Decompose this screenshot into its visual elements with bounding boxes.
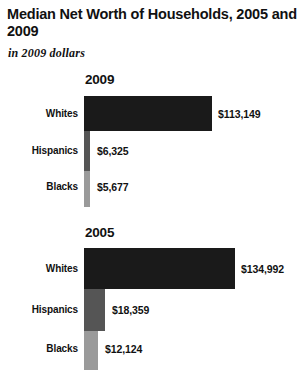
bar-2009-blacks [84, 171, 90, 207]
panel-year-label-2005: 2005 [85, 225, 114, 240]
panel-2009: 2009 Whites $113,149 Hispanics $6,325 Bl… [0, 72, 305, 207]
bar-2009-hispanics [84, 131, 90, 171]
bar-row-2005-hispanics: Hispanics $18,359 [0, 289, 305, 331]
chart-title: Median Net Worth of Households, 2005 and… [7, 6, 297, 40]
value-label-2005-whites: $134,992 [241, 263, 284, 275]
value-label-2005-hispanics: $18,359 [112, 304, 149, 316]
category-label-2009-blacks: Blacks [0, 181, 78, 192]
bar-row-2005-blacks: Blacks $12,124 [0, 331, 305, 370]
bar-row-2009-whites: Whites $113,149 [0, 96, 305, 131]
category-label-2005-whites: Whites [0, 263, 78, 274]
category-label-2009-hispanics: Hispanics [0, 145, 78, 156]
bar-2009-whites [84, 96, 212, 131]
chart-subtitle: in 2009 dollars [8, 46, 85, 61]
value-label-2009-whites: $113,149 [218, 108, 260, 120]
panel-year-label-2009: 2009 [85, 72, 114, 87]
category-label-2005-blacks: Blacks [0, 343, 78, 354]
value-label-2005-blacks: $12,124 [105, 343, 142, 355]
bar-2005-blacks [84, 331, 98, 370]
category-label-2009-whites: Whites [0, 108, 78, 119]
value-label-2009-hispanics: $6,325 [97, 145, 129, 157]
bar-row-2009-hispanics: Hispanics $6,325 [0, 131, 305, 171]
bar-2005-hispanics [84, 289, 105, 331]
chart-container: Median Net Worth of Households, 2005 and… [0, 0, 305, 386]
value-label-2009-blacks: $5,677 [97, 181, 129, 193]
bar-row-2005-whites: Whites $134,992 [0, 248, 305, 289]
panel-2005: 2005 Whites $134,992 Hispanics $18,359 B… [0, 225, 305, 375]
bar-2005-whites [84, 248, 235, 289]
bar-row-2009-blacks: Blacks $5,677 [0, 171, 305, 207]
category-label-2005-hispanics: Hispanics [0, 304, 78, 315]
